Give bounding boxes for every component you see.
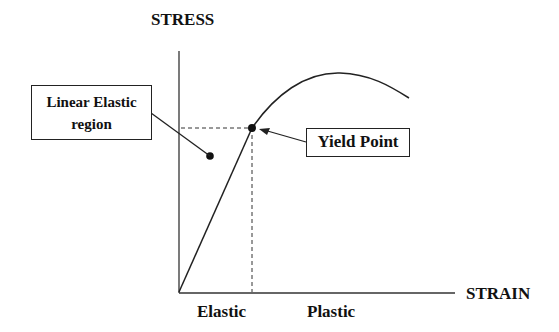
x-axis-label: STRAIN — [466, 284, 530, 304]
plastic-curve — [252, 73, 409, 128]
y-axis-label: STRESS — [151, 10, 214, 30]
plastic-region-label: Plastic — [307, 302, 355, 322]
yield-point-marker — [248, 124, 256, 132]
arrowhead-icon — [259, 128, 270, 135]
linear-elastic-annotation: Linear Elastic region — [31, 85, 152, 140]
linear-elastic-line1: Linear Elastic — [32, 91, 151, 113]
linear-elastic-line2: region — [32, 113, 151, 135]
yield-arrow-line — [264, 130, 306, 142]
yield-point-annotation: Yield Point — [306, 128, 410, 157]
stress-strain-diagram — [0, 0, 559, 332]
elastic-segment — [179, 128, 252, 292]
elastic-leader-line — [151, 113, 210, 156]
elastic-region-label: Elastic — [197, 302, 246, 322]
